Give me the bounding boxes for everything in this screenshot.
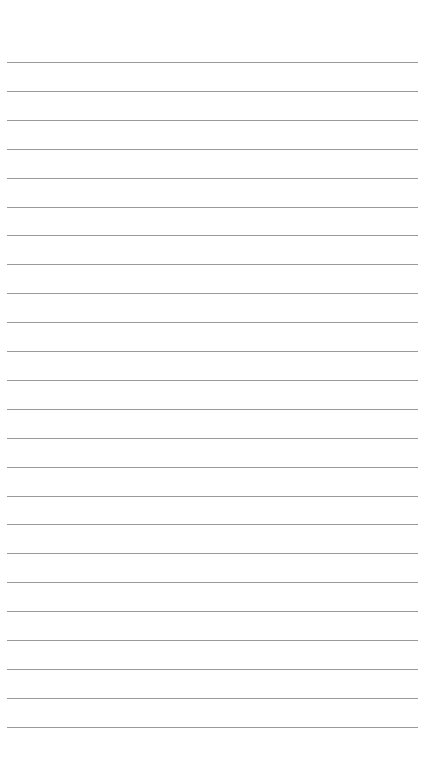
ruled-line — [7, 178, 418, 179]
ruled-line — [7, 611, 418, 612]
ruled-line — [7, 207, 418, 208]
ruled-line — [7, 409, 418, 410]
ruled-line — [7, 264, 418, 265]
ruled-line — [7, 322, 418, 323]
ruled-line — [7, 120, 418, 121]
lined-paper — [0, 0, 438, 777]
ruled-line — [7, 293, 418, 294]
ruled-line — [7, 582, 418, 583]
ruled-line — [7, 62, 418, 63]
ruled-line — [7, 496, 418, 497]
ruled-line — [7, 380, 418, 381]
ruled-line — [7, 149, 418, 150]
ruled-line — [7, 438, 418, 439]
ruled-line — [7, 698, 418, 699]
ruled-line — [7, 640, 418, 641]
ruled-line — [7, 91, 418, 92]
ruled-line — [7, 727, 418, 728]
ruled-line — [7, 524, 418, 525]
ruled-line — [7, 467, 418, 468]
ruled-line — [7, 553, 418, 554]
ruled-line — [7, 351, 418, 352]
ruled-line — [7, 669, 418, 670]
ruled-line — [7, 235, 418, 236]
